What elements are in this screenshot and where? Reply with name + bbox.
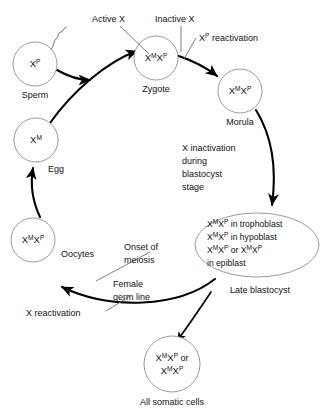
- xci-cycle-diagram: XP Sperm XM Egg XMXP Oocytes XMXP Zygote…: [0, 0, 324, 412]
- annotation-x-inactivation-line3: blastocyst: [182, 169, 223, 179]
- blastocyst-line-epiblast-tail: in epiblast: [207, 258, 246, 268]
- diagram-canvas: XP Sperm XM Egg XMXP Oocytes XMXP Zygote…: [0, 0, 324, 412]
- blastocyst-line-trophoblast: XMXP in trophoblast: [207, 218, 283, 229]
- arrow-oocytes-to-egg: [32, 168, 40, 217]
- annotation-xp-reactivation: XP reactivation: [199, 32, 258, 43]
- zygote-label: Zygote: [142, 84, 170, 94]
- somatic-label: All somatic cells: [140, 397, 205, 407]
- blastocyst-line-hypoblast: XMXP in hypoblast: [207, 231, 277, 242]
- leader-xp-reactivation: [184, 38, 196, 59]
- annotation-female-germ-line-1: Female: [113, 279, 143, 289]
- late-blastocyst-label: Late blastocyst: [230, 285, 291, 295]
- arrow-morula-to-blastocyst: [256, 110, 274, 205]
- annotation-x-reactivation: X reactivation: [26, 308, 81, 318]
- arrow-zygote-to-morula: [176, 55, 217, 76]
- sperm-label: Sperm: [22, 90, 49, 100]
- somatic-genotype-line1: XMXP or: [155, 352, 188, 363]
- flagellum-icon: [51, 27, 66, 49]
- oocytes-label: Oocytes: [61, 249, 95, 259]
- annotation-x-inactivation-line1: X inactivation: [182, 143, 236, 153]
- annotation-x-inactivation-line4: stage: [182, 182, 204, 192]
- annotation-female-germ-line-2: germ line: [113, 292, 150, 302]
- arrow-sperm-to-zygote: [57, 70, 90, 80]
- egg-label: Egg: [48, 164, 64, 174]
- arrow-blastocyst-to-somatic: [177, 292, 211, 341]
- annotation-active-x: Active X: [92, 14, 125, 24]
- morula-label: Morula: [226, 117, 254, 127]
- arrow-egg-to-zygote: [50, 51, 137, 123]
- annotation-onset-meiosis-line1: Onset of: [124, 242, 159, 252]
- annotation-x-inactivation-line2: during: [182, 156, 207, 166]
- annotation-inactive-x: Inactive X: [155, 14, 195, 24]
- annotation-onset-meiosis-line2: meiosis: [124, 255, 155, 265]
